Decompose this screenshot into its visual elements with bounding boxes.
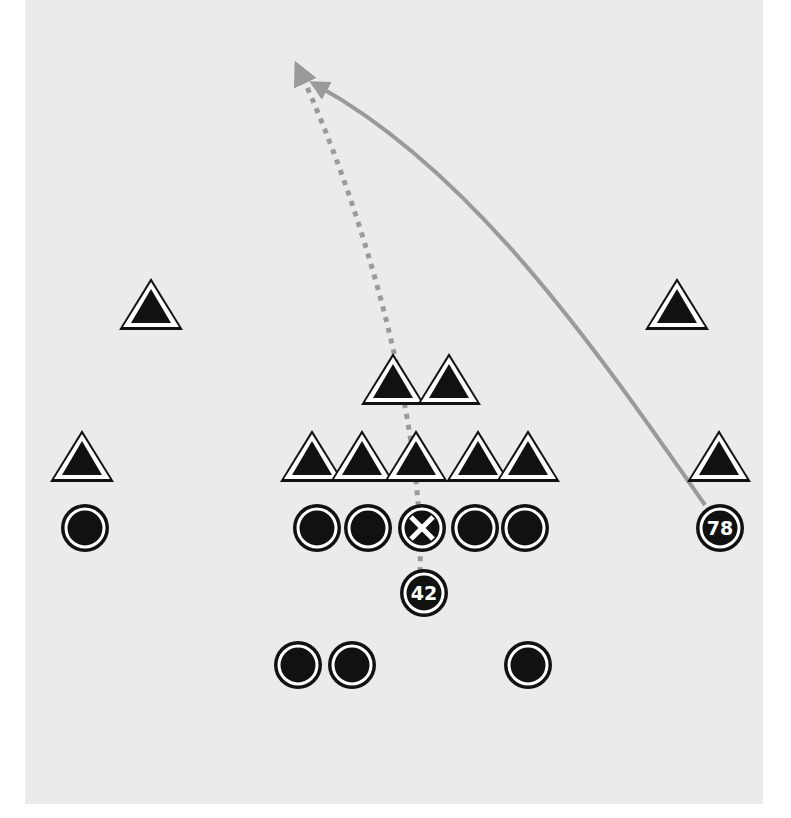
- defender-triangle-icon: [645, 278, 709, 330]
- player-78-circle-icon: 78: [696, 504, 744, 552]
- route-42-route-arrow: [300, 72, 420, 572]
- center-x-icon: [398, 504, 446, 552]
- defender-triangle-icon: [417, 353, 481, 405]
- play-diagram: 7842: [0, 0, 791, 818]
- route-78-route-arrow: [318, 86, 705, 505]
- offense-player-circle-icon: [344, 504, 392, 552]
- offense-player-circle-icon: [328, 641, 376, 689]
- defender-triangle-icon: [496, 430, 560, 482]
- player-number-label: 78: [707, 517, 733, 539]
- offense-player-circle-icon: [293, 504, 341, 552]
- defender-triangle-icon: [384, 430, 448, 482]
- player-42-circle-icon: 42: [400, 569, 448, 617]
- defender-triangle-icon: [119, 278, 183, 330]
- offense-player-circle-icon: [274, 641, 322, 689]
- defender-triangle-icon: [50, 430, 114, 482]
- offense-player-circle-icon: [501, 504, 549, 552]
- defender-triangle-icon: [687, 430, 751, 482]
- defender-triangle-icon: [330, 430, 394, 482]
- offense-player-circle-icon: [504, 641, 552, 689]
- defender-triangle-icon: [361, 353, 425, 405]
- offense-player-circle-icon: [61, 504, 109, 552]
- offense-player-circle-icon: [451, 504, 499, 552]
- defender-triangle-icon: [446, 430, 510, 482]
- defender-triangle-icon: [280, 430, 344, 482]
- player-number-label: 42: [411, 582, 437, 604]
